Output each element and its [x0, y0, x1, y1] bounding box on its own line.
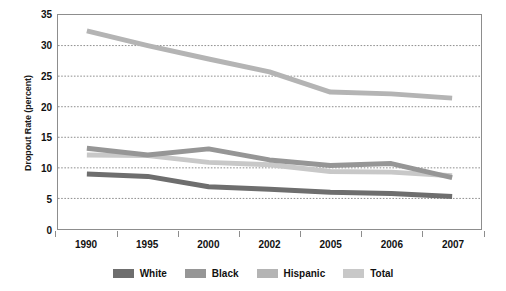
x-axis-tick-labels: 1990199520002002200520062007: [57, 239, 482, 255]
x-tick-mark: [361, 231, 362, 237]
y-tick-label: 35: [26, 9, 52, 20]
y-tick-label: 0: [26, 225, 52, 236]
legend-label: Hispanic: [284, 268, 326, 279]
legend-swatch-icon: [113, 269, 134, 278]
legend-item-black[interactable]: Black: [185, 268, 239, 279]
legend-swatch-icon: [257, 269, 278, 278]
x-tick-mark: [300, 231, 301, 237]
x-tick-mark: [117, 231, 118, 237]
x-tick-mark: [422, 231, 423, 237]
legend-swatch-icon: [343, 269, 364, 278]
y-tick-label: 20: [26, 101, 52, 112]
y-tick-label: 30: [26, 39, 52, 50]
x-tick-mark: [239, 231, 240, 237]
legend-label: Total: [370, 268, 393, 279]
legend-item-hispanic[interactable]: Hispanic: [257, 268, 326, 279]
y-tick-label: 25: [26, 70, 52, 81]
series-line-white: [87, 174, 452, 197]
legend-label: Black: [212, 268, 239, 279]
x-axis-tick-marks: [57, 231, 482, 238]
x-tick-mark: [178, 231, 179, 237]
y-tick-label: 5: [26, 194, 52, 205]
chart-legend: WhiteBlackHispanicTotal: [0, 264, 506, 282]
series-line-hispanic: [87, 31, 452, 98]
x-tick-mark: [484, 231, 485, 237]
x-tick-label: 2007: [423, 239, 483, 250]
x-tick-label: 2005: [301, 239, 361, 250]
x-tick-label: 1995: [117, 239, 177, 250]
legend-swatch-icon: [185, 269, 206, 278]
y-axis-tick-labels: 05101520253035: [26, 14, 52, 230]
legend-label: White: [140, 268, 167, 279]
x-tick-label: 2002: [240, 239, 300, 250]
plot-area: [57, 14, 482, 230]
x-tick-label: 2000: [178, 239, 238, 250]
legend-item-white[interactable]: White: [113, 268, 167, 279]
dropout-rate-line-chart: Dropout Rate (percent) 05101520253035 19…: [0, 0, 506, 291]
x-tick-label: 1990: [56, 239, 116, 250]
y-tick-label: 15: [26, 132, 52, 143]
x-tick-mark: [55, 231, 56, 237]
x-tick-label: 2006: [362, 239, 422, 250]
y-tick-label: 10: [26, 163, 52, 174]
legend-item-total[interactable]: Total: [343, 268, 393, 279]
plot-svg: [58, 15, 481, 229]
